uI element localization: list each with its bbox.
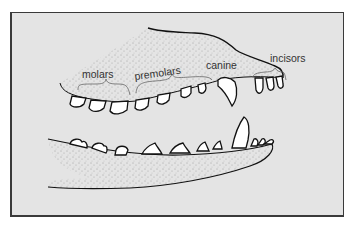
lower-teeth bbox=[70, 117, 273, 155]
label-canine: canine bbox=[206, 59, 237, 71]
dog-jaw-illustration: molars premolars canine incisors bbox=[0, 0, 356, 227]
label-molars: molars bbox=[82, 68, 114, 80]
lower-jaw bbox=[48, 117, 274, 189]
label-incisors: incisors bbox=[270, 52, 306, 64]
